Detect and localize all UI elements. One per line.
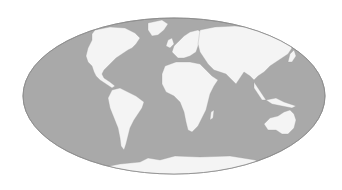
world-map xyxy=(0,0,342,190)
